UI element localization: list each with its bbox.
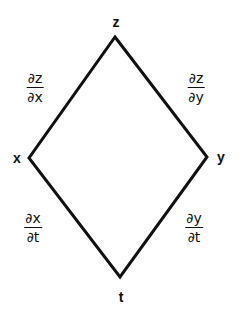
node-label-x: x (13, 151, 21, 165)
node-label-y: y (217, 150, 225, 164)
fraction-numerator: ∂z (188, 71, 205, 88)
node-label-t: t (119, 290, 124, 304)
edge-label-dx-dt: ∂x ∂t (24, 211, 42, 245)
diamond-outline (29, 37, 207, 277)
fraction-denominator: ∂y (188, 88, 204, 105)
edge-label-dz-dx: ∂z ∂x (27, 71, 44, 105)
fraction-denominator: ∂x (27, 88, 43, 105)
diamond-edges (0, 0, 243, 323)
node-label-z: z (113, 15, 120, 29)
chain-rule-diagram: z x y t ∂z ∂x ∂z ∂y ∂x ∂t ∂y ∂t (0, 0, 243, 323)
fraction-numerator: ∂y (185, 211, 203, 228)
fraction-numerator: ∂z (27, 71, 44, 88)
edge-label-dz-dy: ∂z ∂y (188, 71, 205, 105)
fraction-numerator: ∂x (24, 211, 42, 228)
fraction-denominator: ∂t (188, 228, 201, 245)
fraction-denominator: ∂t (27, 228, 40, 245)
edge-label-dy-dt: ∂y ∂t (185, 211, 203, 245)
